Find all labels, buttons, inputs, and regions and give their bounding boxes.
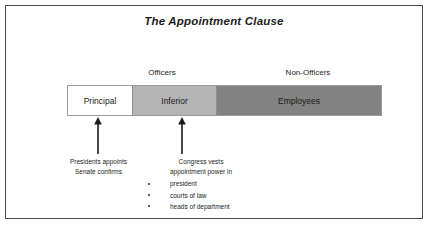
- annotation-inferior-line-2: appointment power in: [142, 167, 260, 177]
- category-bar: Principal Inferior Employees: [67, 85, 384, 116]
- diagram-frame: The Appointment Clause Officers Non-Offi…: [5, 5, 423, 219]
- group-label-non-officers: Non-Officers: [258, 68, 358, 77]
- bullet-icon: [148, 205, 150, 207]
- page-title: The Appointment Clause: [6, 15, 422, 27]
- list-item: courts of law: [142, 190, 260, 201]
- list-item: president: [142, 178, 260, 189]
- list-item-label: president: [170, 180, 197, 187]
- bar-segment-employees: Employees: [216, 85, 382, 116]
- annotation-principal: Presidents appoints Senate confirms: [58, 157, 139, 177]
- up-arrow-icon-principal: [92, 117, 104, 154]
- list-item-label: courts of law: [170, 192, 207, 199]
- annotation-inferior: Congress vests appointment power in pres…: [142, 157, 260, 212]
- annotation-inferior-line-1: Congress vests: [142, 157, 260, 167]
- bar-segment-inferior: Inferior: [132, 85, 217, 116]
- list-item-label: heads of department: [170, 203, 230, 210]
- bullet-icon: [148, 194, 150, 196]
- list-item: heads of department: [142, 201, 260, 212]
- annotation-inferior-bullet-list: president courts of law heads of departm…: [142, 178, 260, 212]
- group-label-officers: Officers: [122, 68, 202, 77]
- bullet-icon: [148, 183, 150, 185]
- annotation-principal-line-2: Senate confirms: [58, 167, 139, 177]
- annotation-principal-line-1: Presidents appoints: [58, 157, 139, 167]
- up-arrow-icon-inferior: [176, 117, 188, 154]
- bar-segment-principal: Principal: [67, 85, 133, 116]
